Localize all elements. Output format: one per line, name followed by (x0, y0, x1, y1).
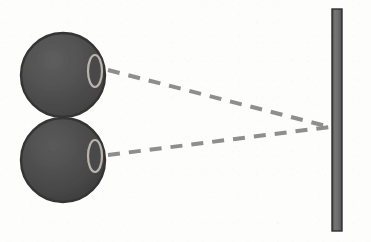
upper-sight-line (108, 70, 330, 127)
upper-eye-lens (88, 55, 102, 87)
lower-eye-lens (88, 140, 102, 172)
lower-sight-line (108, 127, 330, 155)
vertical-screen-bar (332, 9, 342, 231)
optics-figure (0, 0, 371, 242)
figure-canvas (0, 0, 371, 242)
